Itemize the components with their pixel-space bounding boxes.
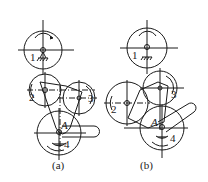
gear-label-2-b: 2: [111, 104, 117, 115]
gear-label-2-a: 2: [29, 92, 35, 103]
caption-b: (b): [140, 160, 153, 171]
gear-label-1-a: 1: [30, 52, 36, 63]
gear-2-a: [27, 72, 95, 108]
gear-label-4-b: 4: [170, 133, 176, 144]
gear-1-a: [18, 20, 74, 74]
pivot-label-a: A: [61, 120, 68, 131]
gear-label-1-b: 1: [132, 50, 138, 61]
caption-a: (a): [52, 160, 64, 171]
gear-4-b: [124, 105, 188, 158]
gear-4-a: [34, 108, 86, 160]
panel-a: [18, 20, 100, 160]
pivot-label-b: A: [151, 117, 158, 128]
gear-1-b: [120, 20, 178, 74]
gear-label-4-a: 4: [64, 139, 70, 150]
gear-label-3-b: 3: [171, 89, 177, 100]
panel-b: [104, 20, 196, 158]
gear-label-3-a: 3: [88, 93, 94, 104]
